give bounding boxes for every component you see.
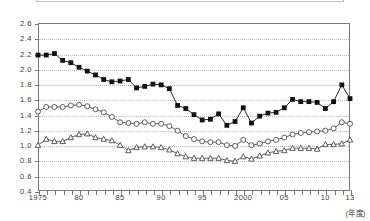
x-tick-label: 1975: [29, 193, 47, 202]
data-point: [347, 137, 352, 142]
data-point: [331, 99, 336, 104]
data-point: [93, 135, 98, 140]
data-point: [339, 120, 344, 125]
y-tick-label: 1.0: [20, 141, 32, 150]
data-point: [175, 128, 180, 133]
data-point: [109, 114, 114, 119]
data-point: [241, 105, 246, 110]
data-point: [323, 128, 328, 133]
data-point: [35, 142, 40, 147]
data-point: [118, 79, 123, 84]
data-point: [126, 77, 131, 82]
data-point: [60, 105, 65, 110]
data-point: [134, 86, 139, 91]
data-point: [142, 84, 147, 89]
data-point: [101, 77, 106, 82]
data-point: [44, 105, 49, 110]
data-point: [68, 103, 73, 108]
series-open-triangle: [35, 131, 352, 164]
data-point: [307, 99, 312, 104]
data-point: [192, 137, 197, 142]
data-point: [93, 107, 98, 112]
data-point: [282, 135, 287, 140]
data-point: [208, 140, 213, 145]
x-tick-label: 13: [345, 193, 354, 202]
data-point: [175, 103, 180, 108]
y-tick-label: 0.6: [20, 171, 32, 180]
x-axis: 1975808590952000051013: [0, 193, 370, 207]
x-tick-label: 05: [280, 193, 289, 202]
data-point: [77, 102, 82, 107]
data-point: [298, 99, 303, 104]
data-point: [323, 106, 328, 111]
data-point: [224, 143, 229, 148]
y-tick-label: 1.4: [20, 110, 32, 119]
data-point: [85, 104, 90, 109]
data-point: [68, 60, 73, 65]
legend-box: [36, 0, 344, 2]
data-point: [339, 82, 344, 87]
data-point: [44, 53, 49, 58]
data-point: [192, 112, 197, 117]
x-axis-title: (年度): [345, 207, 366, 218]
series-filled-square: [36, 51, 353, 128]
data-point: [44, 136, 49, 141]
series-layer: [38, 23, 350, 191]
data-point: [339, 141, 344, 146]
data-point: [224, 123, 229, 128]
x-tick-label: 80: [74, 193, 83, 202]
data-point: [109, 79, 114, 84]
data-point: [118, 120, 123, 125]
data-point: [282, 105, 287, 110]
data-point: [175, 151, 180, 156]
data-point: [52, 105, 57, 110]
data-point: [306, 130, 311, 135]
data-point: [257, 114, 262, 119]
data-point: [60, 58, 65, 63]
x-tick-label: 10: [321, 193, 330, 202]
data-point: [142, 120, 147, 125]
data-point: [216, 111, 221, 116]
data-point: [315, 129, 320, 134]
y-tick-label: 2.0: [20, 64, 32, 73]
data-point: [183, 106, 188, 111]
data-point: [150, 121, 155, 126]
data-point: [208, 117, 213, 122]
data-point: [274, 110, 279, 115]
chart-container: 2.62.42.22.01.81.61.41.21.00.80.60.4 197…: [0, 0, 370, 221]
series-open-circle: [36, 102, 353, 148]
data-point: [93, 73, 98, 78]
data-point: [331, 126, 336, 131]
data-point: [274, 137, 279, 142]
data-point: [134, 121, 139, 126]
data-point: [85, 69, 90, 74]
data-point: [241, 137, 246, 142]
data-point: [52, 51, 57, 56]
data-point: [167, 86, 172, 91]
data-point: [85, 131, 90, 136]
data-point: [36, 109, 41, 114]
data-point: [77, 65, 82, 70]
y-tick-label: 2.2: [20, 49, 32, 58]
data-point: [241, 154, 246, 159]
data-point: [290, 97, 295, 102]
y-axis: 2.62.42.22.01.81.61.41.21.00.80.60.4: [0, 23, 36, 191]
x-tick-label: 90: [157, 193, 166, 202]
x-tick-label: 2000: [234, 193, 252, 202]
y-tick-label: 1.8: [20, 80, 32, 89]
data-point: [200, 118, 205, 123]
y-tick-label: 2.6: [20, 19, 32, 28]
data-point: [298, 130, 303, 135]
y-tick-label: 1.6: [20, 95, 32, 104]
data-point: [249, 121, 254, 126]
data-point: [200, 139, 205, 144]
data-point: [101, 110, 106, 115]
data-point: [183, 134, 188, 139]
data-point: [249, 143, 254, 148]
data-point: [233, 119, 238, 124]
y-tick-label: 2.4: [20, 34, 32, 43]
data-point: [348, 121, 353, 126]
data-point: [265, 139, 270, 144]
y-tick-label: 0.8: [20, 156, 32, 165]
data-point: [265, 111, 270, 116]
